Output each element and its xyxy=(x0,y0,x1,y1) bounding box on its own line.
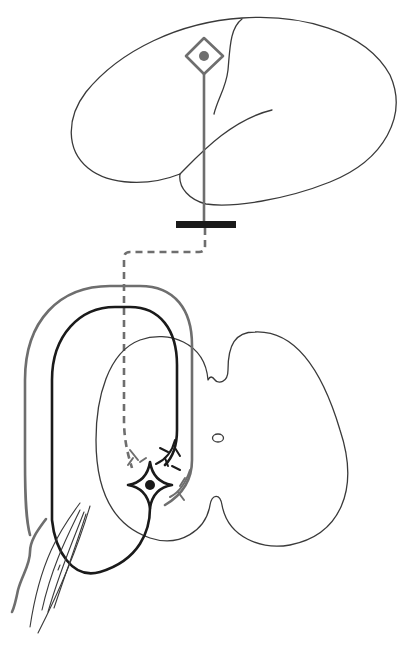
muscle-fibers xyxy=(30,503,90,633)
brain xyxy=(71,17,396,205)
brain-outline xyxy=(71,17,396,205)
spinal-cord-outline xyxy=(96,332,348,546)
sensory-afferent-loop xyxy=(25,286,192,535)
decussation-bar xyxy=(176,221,236,228)
neural-pathway-diagram xyxy=(0,0,405,653)
nucleus-icon xyxy=(145,480,155,490)
spinal-cord xyxy=(96,332,348,546)
lower-motor-neuron xyxy=(128,462,172,508)
central-sulcus xyxy=(214,19,242,114)
motor-efferent-loop xyxy=(52,307,177,573)
upper-motor-neuron xyxy=(186,38,223,74)
lateral-fissure xyxy=(180,110,272,174)
central-canal xyxy=(213,434,224,442)
nucleus-icon xyxy=(199,51,209,61)
